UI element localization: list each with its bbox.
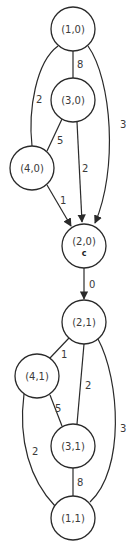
node-label: (2,0) <box>72 236 96 247</box>
edge-label-31-11: 8 <box>77 477 83 488</box>
node-1-0: (1,0) <box>51 7 95 51</box>
node-4-0: (4,0) <box>10 146 54 190</box>
edge-label-21-11: 3 <box>120 423 126 434</box>
node-label: (3,0) <box>61 95 85 106</box>
node-label: (2,1) <box>72 317 96 328</box>
edge-label-40-20: 1 <box>60 195 66 206</box>
node-label: (3,1) <box>61 441 85 452</box>
edge-label-30-20: 2 <box>82 163 88 174</box>
node-4-1: (4,1) <box>15 354 59 398</box>
node-1-1: (1,1) <box>51 496 95 540</box>
edge-21-11 <box>90 339 115 502</box>
node-3-0: (3,0) <box>51 78 95 122</box>
node-label: (4,1) <box>25 371 49 382</box>
edge-label-10-20: 3 <box>120 119 126 130</box>
node-sublabel: c <box>82 249 87 258</box>
edge-41-11 <box>22 394 55 506</box>
node-label: (4,0) <box>20 163 44 174</box>
node-2-1: (2,1) <box>62 300 106 344</box>
edge-label-30-40: 5 <box>57 135 63 146</box>
edge-label-21-31: 2 <box>85 380 91 391</box>
edge-label-10-30: 8 <box>77 59 83 70</box>
edge-label-41-11: 2 <box>32 446 38 457</box>
node-3-1: (3,1) <box>51 424 95 468</box>
graph-diagram: 8 2 3 5 2 1 0 1 2 3 5 2 <box>0 0 134 552</box>
edge-label-10-40: 2 <box>36 94 42 105</box>
edge-10-20 <box>88 46 109 223</box>
node-2-0: (2,0) c <box>62 224 106 268</box>
node-label: (1,0) <box>61 24 85 35</box>
edge-21-31 <box>77 344 84 424</box>
node-label: (1,1) <box>61 513 85 524</box>
edge-40-20 <box>47 185 71 226</box>
edge-label-21-41: 1 <box>61 349 67 360</box>
edge-label-41-31: 5 <box>55 403 61 414</box>
edge-label-20-21: 0 <box>89 279 95 290</box>
